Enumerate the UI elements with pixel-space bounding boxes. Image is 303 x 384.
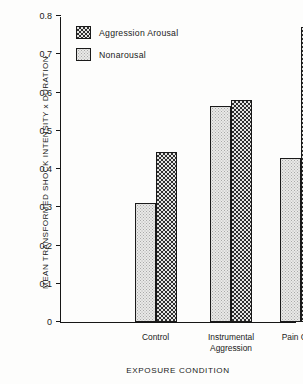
bar-aggression-arousal: [231, 100, 252, 322]
category-label-line: Aggression: [208, 343, 254, 354]
legend-item-nonarousal: Nonarousal: [76, 47, 178, 62]
y-tick-label: 0.7: [39, 50, 52, 59]
legend-item-aggression-arousal: Aggression Arousal: [76, 25, 178, 40]
legend-swatch-aggression-arousal: [76, 26, 91, 39]
category-label: InstrumentalAggression: [208, 323, 254, 353]
category-label-line: Control: [142, 332, 169, 343]
y-tick-label: 0.2: [39, 241, 52, 250]
y-tick-label: 0.1: [39, 279, 52, 288]
y-tick-label: 0.6: [39, 88, 52, 97]
x-axis-title: EXPOSURE CONDITION: [60, 366, 296, 375]
legend-label-nonarousal: Nonarousal: [99, 50, 146, 60]
category-label-line: Pain Cues: [282, 332, 303, 343]
bar-aggression-arousal: [301, 27, 303, 322]
legend-label-aggression-arousal: Aggression Arousal: [99, 28, 178, 38]
chart-legend: Aggression Arousal Nonarousal: [76, 25, 178, 69]
y-tick-label: 0.5: [39, 126, 52, 135]
bar-nonarousal: [210, 106, 231, 322]
category-label-line: Instrumental: [208, 332, 254, 343]
y-tick-label: 0.3: [39, 203, 52, 212]
category-label: Pain Cues: [282, 323, 303, 343]
legend-swatch-nonarousal: [76, 48, 91, 61]
bar-nonarousal: [135, 203, 156, 322]
y-tick-label: 0: [47, 318, 52, 327]
bar-nonarousal: [280, 158, 301, 322]
y-tick-label: 0.8: [39, 12, 52, 21]
y-tick: 0.8: [56, 15, 61, 16]
bar-chart-figure: MEAN TRANSFORMED SHOCK INTENSITY x DURAT…: [0, 0, 303, 384]
category-label: Control: [142, 323, 169, 343]
bar-aggression-arousal: [156, 152, 177, 322]
y-tick-label: 0.4: [39, 165, 52, 174]
